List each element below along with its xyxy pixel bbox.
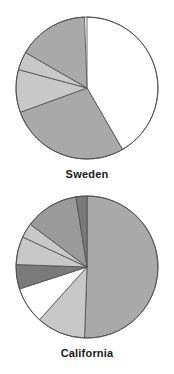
pie-slices-california bbox=[16, 196, 158, 338]
pie-slice bbox=[85, 196, 158, 338]
pie-slices-sweden bbox=[16, 17, 158, 159]
pie-chart-figure: Sweden California bbox=[0, 0, 174, 374]
pie-chart-california bbox=[13, 193, 161, 341]
pie-chart-sweden bbox=[13, 14, 161, 162]
chart-block-sweden: Sweden bbox=[0, 0, 174, 181]
chart-caption-sweden: Sweden bbox=[66, 168, 109, 181]
chart-block-california: California bbox=[0, 181, 174, 360]
pie-svg-california bbox=[13, 193, 161, 341]
pie-svg-sweden bbox=[13, 14, 161, 162]
chart-caption-california: California bbox=[61, 347, 114, 360]
